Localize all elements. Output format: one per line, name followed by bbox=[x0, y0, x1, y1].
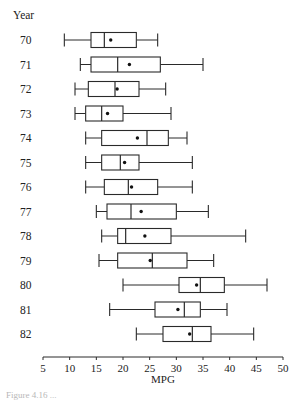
mean-dot bbox=[176, 308, 179, 311]
mean-dot bbox=[136, 136, 139, 139]
mean-dot bbox=[128, 63, 131, 66]
box-row-72: 72 bbox=[20, 82, 166, 97]
iqr-box bbox=[91, 33, 136, 48]
box-row-79: 79 bbox=[20, 253, 214, 268]
mean-dot bbox=[130, 185, 133, 188]
year-label: 80 bbox=[20, 279, 32, 291]
mean-dot bbox=[123, 161, 126, 164]
iqr-box bbox=[86, 106, 123, 121]
x-tick-label: 5 bbox=[40, 362, 46, 374]
box-row-82: 82 bbox=[20, 327, 254, 342]
box-row-78: 78 bbox=[20, 229, 246, 244]
year-label: 73 bbox=[20, 108, 32, 120]
mean-dot bbox=[143, 234, 146, 237]
iqr-box bbox=[102, 131, 169, 146]
year-label: 78 bbox=[20, 230, 32, 242]
year-label: 79 bbox=[20, 255, 32, 267]
box-row-74: 74 bbox=[20, 131, 187, 146]
box-row-76: 76 bbox=[20, 180, 192, 195]
year-label: 75 bbox=[20, 157, 32, 169]
y-axis-title: Year bbox=[13, 9, 34, 21]
mean-dot bbox=[106, 112, 109, 115]
iqr-box bbox=[163, 327, 211, 342]
iqr-box bbox=[88, 82, 139, 97]
box-row-81: 81 bbox=[20, 302, 227, 317]
x-tick-label: 15 bbox=[91, 362, 103, 374]
mean-dot bbox=[109, 38, 112, 41]
boxplot-chart: Year 70717273747576777879808182 51015202… bbox=[0, 0, 300, 402]
mean-dot bbox=[188, 332, 191, 335]
box-row-71: 71 bbox=[20, 57, 203, 72]
x-tick-label: 35 bbox=[198, 362, 210, 374]
x-axis-title: MPG bbox=[151, 373, 175, 385]
box-row-75: 75 bbox=[20, 155, 192, 170]
year-label: 77 bbox=[20, 206, 32, 218]
box-row-77: 77 bbox=[20, 204, 208, 219]
x-tick-label: 40 bbox=[224, 362, 236, 374]
year-label: 82 bbox=[20, 328, 32, 340]
x-tick-label: 10 bbox=[64, 362, 76, 374]
box-rows: 70717273747576777879808182 bbox=[20, 33, 267, 342]
x-tick-label: 45 bbox=[251, 362, 263, 374]
box-row-70: 70 bbox=[20, 33, 158, 48]
year-label: 70 bbox=[20, 34, 32, 46]
mean-dot bbox=[195, 283, 198, 286]
figure-caption: Figure 4.16 ... bbox=[6, 390, 57, 400]
year-label: 81 bbox=[20, 304, 32, 316]
mean-dot bbox=[149, 259, 152, 262]
mean-dot bbox=[115, 87, 118, 90]
x-tick-label: 50 bbox=[278, 362, 290, 374]
year-label: 74 bbox=[20, 132, 32, 144]
year-label: 72 bbox=[20, 83, 32, 95]
year-label: 76 bbox=[20, 181, 32, 193]
x-axis: 5101520253035404550 bbox=[40, 357, 289, 374]
year-label: 71 bbox=[20, 59, 32, 71]
x-tick-label: 20 bbox=[118, 362, 130, 374]
iqr-box bbox=[91, 57, 160, 72]
mean-dot bbox=[139, 210, 142, 213]
iqr-box bbox=[179, 278, 224, 293]
box-row-73: 73 bbox=[20, 106, 171, 121]
box-row-80: 80 bbox=[20, 278, 267, 293]
